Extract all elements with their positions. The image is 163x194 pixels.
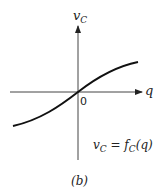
- x-axis-label: q: [145, 84, 153, 97]
- y-axis-label: vC: [73, 9, 87, 25]
- origin-label: 0: [80, 95, 87, 108]
- equation-label: vC = fC(q): [93, 139, 153, 154]
- caption: (b): [71, 175, 88, 187]
- curve: [13, 62, 138, 126]
